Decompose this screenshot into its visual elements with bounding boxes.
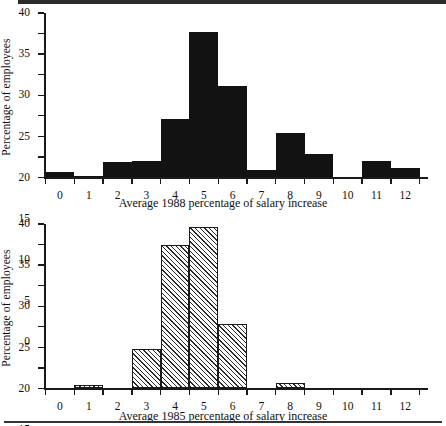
page-rule xyxy=(4,421,442,423)
y-tick: 40 xyxy=(38,223,44,224)
y-tick-label: 20 xyxy=(19,382,31,394)
bar xyxy=(103,162,132,178)
y-tick: 30 xyxy=(38,264,44,265)
y-tick: 30 xyxy=(38,53,44,54)
bar xyxy=(132,349,161,388)
x-tick xyxy=(131,390,132,395)
bar xyxy=(161,119,190,177)
x-tick xyxy=(304,179,305,184)
x-tick xyxy=(131,179,132,184)
y-tick-label: 25 xyxy=(19,130,31,142)
y-tick: 0 xyxy=(38,388,44,389)
y-axis-line xyxy=(44,224,46,390)
bar xyxy=(74,385,103,389)
x-tick xyxy=(102,390,103,395)
plot-area-1985: 0510152025303540 0123456789101112 xyxy=(44,224,424,390)
chart-1988: Percentage of employees 0510152025303540… xyxy=(0,4,446,209)
x-tick xyxy=(275,179,276,184)
y-tick: 35 xyxy=(38,244,44,245)
chart-1985: Percentage of employees 0510152025303540… xyxy=(0,211,446,421)
x-tick xyxy=(45,390,46,395)
y-tick-label: 20 xyxy=(19,171,31,183)
y-tick-label: 35 xyxy=(19,258,31,270)
x-tick xyxy=(275,390,276,395)
x-tick xyxy=(246,390,247,395)
bar xyxy=(391,168,420,178)
bar xyxy=(276,133,305,177)
bar xyxy=(132,161,161,177)
bar xyxy=(189,32,218,178)
bar xyxy=(189,227,218,388)
y-tick-label: 40 xyxy=(19,6,31,18)
y-tick: 35 xyxy=(38,33,44,34)
bar xyxy=(218,86,247,177)
figure-page: Percentage of employees 0510152025303540… xyxy=(0,0,446,426)
x-tick xyxy=(45,179,46,184)
x-tick xyxy=(304,390,305,395)
plot-area-1988: 0510152025303540 0123456789101112 xyxy=(44,13,424,179)
y-tick: 0 xyxy=(38,177,44,178)
y-tick-label: 30 xyxy=(19,88,31,100)
bar xyxy=(218,324,247,388)
y-axis-line xyxy=(44,13,46,179)
y-tick: 15 xyxy=(38,115,44,116)
x-tick xyxy=(361,179,362,184)
x-tick xyxy=(246,179,247,184)
x-tick xyxy=(333,390,334,395)
y-tick: 5 xyxy=(38,367,44,368)
x-tick xyxy=(74,179,75,184)
y-axis-title: Percentage of employees xyxy=(0,223,14,393)
y-tick: 40 xyxy=(38,12,44,13)
x-tick xyxy=(361,390,362,395)
x-tick xyxy=(160,179,161,184)
y-tick: 10 xyxy=(38,136,44,137)
x-tick xyxy=(189,179,190,184)
bar xyxy=(247,170,276,177)
x-tick xyxy=(74,390,75,395)
x-axis-title: Average 1988 percentage of salary increa… xyxy=(0,196,446,211)
y-tick: 20 xyxy=(38,95,44,96)
y-tick: 25 xyxy=(38,74,44,75)
y-tick: 15 xyxy=(38,326,44,327)
bar xyxy=(276,383,305,388)
x-tick xyxy=(102,179,103,184)
x-tick xyxy=(419,390,420,395)
y-tick-label: 40 xyxy=(19,217,31,229)
y-tick-label: 35 xyxy=(19,47,31,59)
y-tick-label: 25 xyxy=(19,341,31,353)
bar xyxy=(362,161,391,177)
x-tick xyxy=(218,179,219,184)
x-tick xyxy=(189,390,190,395)
bar xyxy=(305,154,334,177)
y-axis-title: Percentage of employees xyxy=(0,12,14,182)
y-tick: 25 xyxy=(38,285,44,286)
x-tick xyxy=(390,390,391,395)
bar xyxy=(46,172,75,177)
x-tick xyxy=(160,390,161,395)
x-tick xyxy=(419,179,420,184)
y-tick-label: 30 xyxy=(19,299,31,311)
y-tick: 20 xyxy=(38,306,44,307)
bar xyxy=(74,176,103,178)
y-tick: 10 xyxy=(38,347,44,348)
y-tick: 5 xyxy=(38,156,44,157)
x-tick xyxy=(390,179,391,184)
bar xyxy=(161,245,190,388)
x-tick xyxy=(333,179,334,184)
x-tick xyxy=(218,390,219,395)
